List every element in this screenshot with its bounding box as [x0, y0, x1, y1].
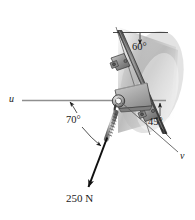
axis-u-label: u — [9, 94, 14, 104]
cable-braid — [107, 113, 118, 140]
angle-60-label: 60° — [132, 42, 147, 53]
force-magnitude-label: 250 N — [66, 193, 93, 204]
cable-force-250n — [89, 113, 118, 188]
angle-70-label: 70° — [66, 115, 81, 126]
clamp-lower-pin — [151, 109, 154, 112]
axis-v-label: v — [180, 151, 184, 161]
clamp-upper-bolt — [113, 63, 116, 66]
clamp-upper-pin — [124, 59, 127, 62]
cable-braid-centerline — [107, 113, 116, 140]
eyelet-highlight — [116, 98, 118, 100]
angle-45-label: 45° — [148, 117, 163, 128]
clamp-lower-bolt — [141, 113, 144, 116]
mechanics-figure — [0, 0, 195, 220]
angle-70-arrow-up — [70, 102, 77, 113]
angle-70-leader — [82, 127, 101, 146]
force-vector-arrow — [89, 138, 108, 188]
